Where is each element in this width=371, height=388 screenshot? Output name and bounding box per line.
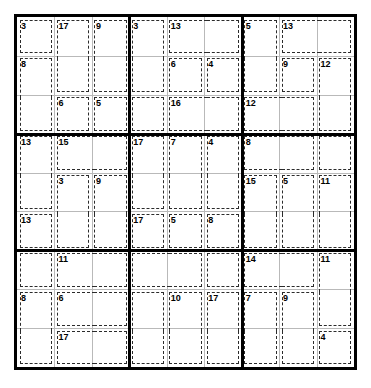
sudoku-cell-r8c3[interactable] bbox=[92, 289, 129, 328]
sudoku-cell-r7c8[interactable] bbox=[279, 250, 316, 289]
grid-line-horizontal-5 bbox=[17, 211, 354, 212]
grid-line-vertical-2 bbox=[92, 17, 93, 367]
sudoku-grid[interactable]: 3179313513864912651612131517748391551113… bbox=[17, 17, 354, 367]
cage-sum-r8c7: 7 bbox=[246, 294, 251, 303]
sudoku-cell-r5c1[interactable] bbox=[17, 173, 54, 212]
sudoku-cell-r2c7[interactable] bbox=[242, 56, 279, 95]
cage-sum-r3c7: 12 bbox=[246, 99, 256, 108]
sudoku-cell-r4c3[interactable] bbox=[92, 134, 129, 173]
grid-line-vertical-7 bbox=[279, 17, 280, 367]
sudoku-cell-r4c9[interactable] bbox=[317, 134, 354, 173]
sudoku-cell-r6c7[interactable] bbox=[242, 211, 279, 250]
cage-sum-r8c5: 10 bbox=[171, 294, 181, 303]
grid-line-horizontal-4 bbox=[17, 173, 354, 174]
cage-sum-r6c4: 17 bbox=[133, 216, 143, 225]
cage-sum-r7c9: 11 bbox=[321, 255, 331, 264]
box-line-vertical-6 bbox=[241, 17, 244, 367]
cage-sum-r6c5: 5 bbox=[171, 216, 176, 225]
sudoku-cell-r5c5[interactable] bbox=[167, 173, 204, 212]
sudoku-cell-r6c3[interactable] bbox=[92, 211, 129, 250]
cage-sum-r4c2: 15 bbox=[58, 138, 68, 147]
cage-sum-r8c1: 8 bbox=[21, 294, 26, 303]
cage-sum-r9c9: 4 bbox=[321, 333, 326, 342]
sudoku-cell-r7c3[interactable] bbox=[92, 250, 129, 289]
sudoku-cell-r9c3[interactable] bbox=[92, 328, 129, 367]
cage-sum-r2c1: 8 bbox=[21, 60, 26, 69]
sudoku-cell-r7c6[interactable] bbox=[204, 250, 241, 289]
sudoku-cell-r6c9[interactable] bbox=[317, 211, 354, 250]
sudoku-cell-r6c8[interactable] bbox=[279, 211, 316, 250]
cage-sum-r1c3: 9 bbox=[96, 22, 101, 31]
sudoku-cell-r9c1[interactable] bbox=[17, 328, 54, 367]
sudoku-cell-r3c6[interactable] bbox=[204, 95, 241, 134]
cage-sum-r5c2: 3 bbox=[58, 177, 63, 186]
cage-sum-r2c5: 6 bbox=[171, 60, 176, 69]
sudoku-cell-r3c4[interactable] bbox=[129, 95, 166, 134]
grid-line-vertical-5 bbox=[204, 17, 205, 367]
cage-sum-r4c7: 8 bbox=[246, 138, 251, 147]
cage-sum-r2c9: 12 bbox=[321, 60, 331, 69]
sudoku-cell-r8c4[interactable] bbox=[129, 289, 166, 328]
cage-sum-r3c5: 16 bbox=[171, 99, 181, 108]
cage-sum-r2c8: 9 bbox=[283, 60, 288, 69]
cage-sum-r7c7: 14 bbox=[246, 255, 256, 264]
sudoku-cell-r2c3[interactable] bbox=[92, 56, 129, 95]
sudoku-cell-r9c6[interactable] bbox=[204, 328, 241, 367]
sudoku-cell-r7c4[interactable] bbox=[129, 250, 166, 289]
sudoku-cell-r7c5[interactable] bbox=[167, 250, 204, 289]
sudoku-cell-r4c8[interactable] bbox=[279, 134, 316, 173]
cage-sum-r8c6: 17 bbox=[208, 294, 218, 303]
cage-sum-r5c3: 9 bbox=[96, 177, 101, 186]
cage-sum-r5c9: 11 bbox=[321, 177, 331, 186]
sudoku-cell-r9c5[interactable] bbox=[167, 328, 204, 367]
grid-line-vertical-4 bbox=[167, 17, 168, 367]
sudoku-cell-r9c4[interactable] bbox=[129, 328, 166, 367]
cage-sum-r4c6: 4 bbox=[208, 138, 213, 147]
killer-sudoku-screenshot: 3179313513864912651612131517748391551113… bbox=[0, 0, 371, 388]
box-line-horizontal-3 bbox=[17, 133, 354, 136]
sudoku-cell-r1c6[interactable] bbox=[204, 17, 241, 56]
sudoku-cell-r2c2[interactable] bbox=[54, 56, 91, 95]
sudoku-cell-r8c9[interactable] bbox=[317, 289, 354, 328]
cage-sum-r6c6: 8 bbox=[208, 216, 213, 225]
grid-line-horizontal-1 bbox=[17, 56, 354, 57]
sudoku-cell-r7c1[interactable] bbox=[17, 250, 54, 289]
sudoku-cell-r1c9[interactable] bbox=[317, 17, 354, 56]
sudoku-cell-r9c7[interactable] bbox=[242, 328, 279, 367]
cage-sum-r3c3: 5 bbox=[96, 99, 101, 108]
grid-line-horizontal-8 bbox=[17, 328, 354, 329]
cage-sum-r1c7: 5 bbox=[246, 22, 251, 31]
sudoku-cell-r3c8[interactable] bbox=[279, 95, 316, 134]
sudoku-cell-r5c4[interactable] bbox=[129, 173, 166, 212]
cage-sum-r4c4: 17 bbox=[133, 138, 143, 147]
cage-sum-r1c1: 3 bbox=[21, 22, 26, 31]
killer-sudoku-puzzle[interactable]: 3179313513864912651612131517748391551113… bbox=[14, 14, 357, 370]
cage-sum-r2c6: 4 bbox=[208, 60, 213, 69]
cage-sum-r7c2: 11 bbox=[58, 255, 68, 264]
sudoku-cell-r5c6[interactable] bbox=[204, 173, 241, 212]
cage-sum-r4c1: 13 bbox=[21, 138, 31, 147]
box-line-vertical-3 bbox=[128, 17, 131, 367]
cage-sum-r8c8: 9 bbox=[283, 294, 288, 303]
grid-line-vertical-8 bbox=[317, 17, 318, 367]
sudoku-cell-r3c9[interactable] bbox=[317, 95, 354, 134]
cage-sum-r9c2: 17 bbox=[58, 333, 68, 342]
sudoku-cell-r9c8[interactable] bbox=[279, 328, 316, 367]
cage-sum-r1c2: 17 bbox=[58, 22, 68, 31]
cage-sum-r8c2: 6 bbox=[58, 294, 63, 303]
cage-sum-r1c8: 13 bbox=[283, 22, 293, 31]
grid-line-horizontal-7 bbox=[17, 289, 354, 290]
cage-sum-r1c4: 3 bbox=[133, 22, 138, 31]
grid-line-vertical-1 bbox=[54, 17, 55, 367]
grid-line-horizontal-2 bbox=[17, 95, 354, 96]
cage-sum-r5c8: 5 bbox=[283, 177, 288, 186]
cage-sum-r1c5: 13 bbox=[171, 22, 181, 31]
cage-sum-r4c5: 7 bbox=[171, 138, 176, 147]
cage-sum-r3c2: 6 bbox=[58, 99, 63, 108]
sudoku-cell-r3c1[interactable] bbox=[17, 95, 54, 134]
cage-sum-r5c7: 15 bbox=[246, 177, 256, 186]
sudoku-cell-r2c4[interactable] bbox=[129, 56, 166, 95]
box-line-horizontal-6 bbox=[17, 249, 354, 252]
sudoku-cell-r6c2[interactable] bbox=[54, 211, 91, 250]
cage-sum-r6c1: 13 bbox=[21, 216, 31, 225]
